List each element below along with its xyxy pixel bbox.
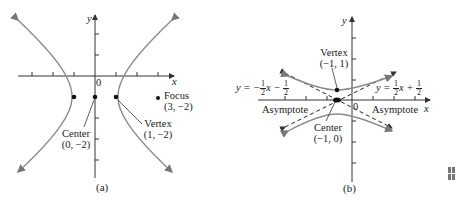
asymptote-right-label: Asymptote xyxy=(372,104,418,115)
vertex-point-a xyxy=(114,95,119,100)
vertex-label-a: Vertex (1, −2) xyxy=(140,118,176,140)
origin-label-a: 0 xyxy=(96,77,101,88)
vertex-point-b xyxy=(335,88,340,93)
asymptote-left-equation: y = −12x − 12 xyxy=(236,80,289,97)
caption-a: (a) xyxy=(96,182,108,193)
y-axis-label-a: y xyxy=(87,13,92,24)
asymptote-left-label: Asymptote xyxy=(262,104,308,115)
figure-b-axes xyxy=(258,17,430,182)
center-point-a xyxy=(93,95,98,100)
x-axis-label-b: x xyxy=(424,103,429,114)
origin-label-b: 0 xyxy=(353,101,358,112)
corner-grid-icon xyxy=(448,167,456,181)
asymptote-right-equation: y = 12x + 12 xyxy=(376,80,422,97)
center-label-a: Center (0, −2) xyxy=(58,128,94,150)
vertex-label-b: Vertex (−1, 1) xyxy=(314,47,354,69)
caption-b: (b) xyxy=(343,183,356,194)
focus-label: Focus (3, −2) xyxy=(164,90,193,112)
center-label-b: Center (−1, 0) xyxy=(308,122,348,144)
hyperbola-figures xyxy=(0,0,456,203)
center-point-b xyxy=(333,98,341,103)
focus-point xyxy=(156,96,160,100)
left-vertex-point xyxy=(72,95,77,100)
x-axis-label-a: x xyxy=(172,76,177,87)
y-axis-label-b: y xyxy=(342,15,347,26)
